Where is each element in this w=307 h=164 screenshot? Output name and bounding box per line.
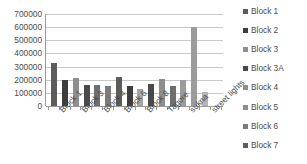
legend-item[interactable]: Block 2 (243, 25, 278, 35)
bar-slot (103, 14, 114, 106)
legend-swatch-icon (243, 85, 248, 90)
bar-slot (49, 14, 60, 106)
legend-swatch-icon (243, 105, 248, 110)
y-axis-tick-label: 300000 (14, 63, 42, 71)
legend-label: Block 1 (251, 7, 278, 16)
plot-area-wrapper: 7000006000005000004000003000002000001000… (0, 0, 232, 164)
legend-item[interactable]: Block 5 (243, 102, 278, 112)
bar (191, 27, 197, 107)
legend-label: Block 3 (251, 45, 278, 54)
legend-swatch-icon (243, 47, 248, 52)
bar-chart: 7000006000005000004000003000002000001000… (0, 0, 307, 164)
y-axis-tick-label: 400000 (14, 49, 42, 57)
bar-slot (210, 14, 221, 106)
legend-item[interactable]: Block 3A (243, 64, 284, 74)
bar-slot (189, 14, 200, 106)
legend-item[interactable]: Block 6 (243, 121, 278, 131)
y-axis-tick-label: 700000 (14, 10, 42, 18)
legend-label: Block 5 (251, 103, 278, 112)
legend-swatch-icon (243, 28, 248, 33)
legend-label: Block 3A (251, 64, 284, 73)
legend-item[interactable]: Block 1 (243, 6, 278, 16)
bar (51, 63, 57, 106)
chart-legend: Block 1Block 2Block 3Block 3ABlock 4Bloc… (243, 6, 307, 161)
bar-slot (81, 14, 92, 106)
x-axis-labels: Block 1Block 3Block 4Block 6Block 8Tagor… (45, 108, 245, 164)
legend-label: Block 2 (251, 26, 278, 35)
legend-swatch-icon (243, 143, 248, 148)
y-axis-tick-label: 200000 (14, 76, 42, 84)
y-axis-tick-label: 500000 (14, 36, 42, 44)
legend-label: Block 4 (251, 83, 278, 92)
y-axis-labels: 7000006000005000004000003000002000001000… (0, 0, 44, 106)
legend-swatch-icon (243, 9, 248, 14)
bar-slot (124, 14, 135, 106)
bar-slot (146, 14, 157, 106)
legend-label: Block 6 (251, 122, 278, 131)
bar-slot (60, 14, 71, 106)
legend-item[interactable]: Block 4 (243, 83, 278, 93)
legend-swatch-icon (243, 66, 248, 71)
bar-slot (167, 14, 178, 106)
legend-swatch-icon (243, 124, 248, 129)
legend-label: Block 7 (251, 141, 278, 150)
legend-item[interactable]: Block 3 (243, 44, 278, 54)
legend-item[interactable]: Block 7 (243, 140, 278, 150)
y-axis-tick-label: 600000 (14, 23, 42, 31)
y-axis-tick-label: 0 (37, 102, 42, 110)
y-axis-tick-label: 100000 (14, 89, 42, 97)
